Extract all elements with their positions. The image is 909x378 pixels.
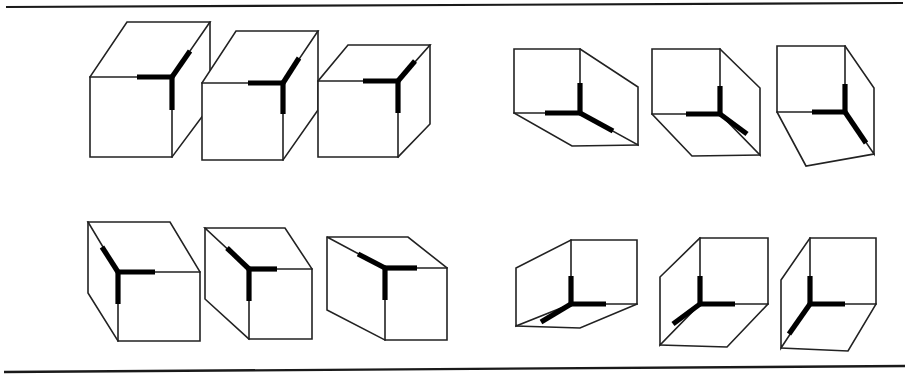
box-10 [516, 240, 637, 328]
box-11 [660, 238, 768, 347]
box-6-front-face [777, 46, 845, 112]
box-4 [514, 49, 638, 146]
box-3-front-face [318, 81, 398, 157]
figure-root [0, 0, 909, 378]
figure-canvas [0, 0, 909, 378]
box-9-front-face [385, 268, 447, 340]
box-4-front-face [514, 49, 580, 113]
box-8 [205, 228, 312, 339]
box-5 [652, 49, 760, 156]
box-9 [327, 237, 447, 340]
box-8-front-face [249, 269, 312, 339]
box-2 [202, 31, 318, 160]
group-top-left [90, 22, 430, 160]
box-7-front-face [118, 272, 200, 341]
box-11-front-face [700, 238, 768, 304]
box-3 [318, 45, 430, 157]
box-5-front-face [652, 49, 720, 114]
group-top-right [514, 46, 874, 166]
group-bottom-left [88, 222, 447, 341]
box-6 [777, 46, 874, 166]
box-12-front-face [810, 238, 876, 304]
box-10-front-face [571, 240, 637, 304]
box-2-front-face [202, 83, 283, 160]
top-rule [6, 3, 903, 7]
box-7 [88, 222, 200, 341]
box-1-front-face [90, 77, 172, 157]
box-1 [90, 22, 210, 157]
bottom-rule [4, 366, 905, 372]
box-12 [781, 238, 876, 351]
group-bottom-right [516, 238, 876, 351]
